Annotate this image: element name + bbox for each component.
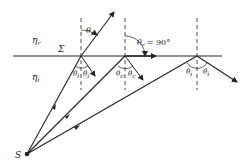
label-theta-c-a: θc [116,70,124,79]
label-theta-i-1a: θi [73,70,79,79]
angle-arc-2 [118,66,133,69]
label-theta-r: θr [86,26,95,36]
label-eta-i: ηi [32,72,39,83]
label-eta-r: ηr [32,35,41,46]
label-source: S [15,150,21,160]
incident-ray-3 [27,56,197,154]
label-theta-i-3b: θi [203,68,209,77]
label-theta-i-3a: θi [186,68,192,77]
label-theta-c-b: θc [128,70,136,79]
label-theta-r-90: θr= 90° [137,38,170,48]
label-theta-i-1b: θi [83,70,89,79]
angle-arc-1 [75,66,88,68]
refraction-diagram: ηr ηi Σ S θr θr= 90° θi θi θc θc θi θi [0,0,252,163]
label-sigma: Σ [57,44,65,54]
source-point [25,152,30,157]
